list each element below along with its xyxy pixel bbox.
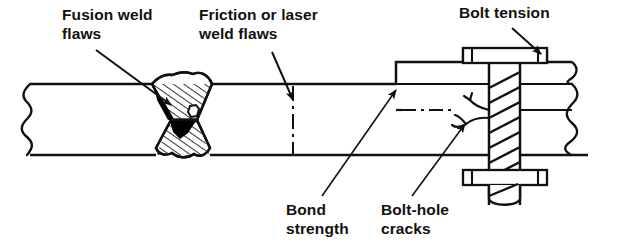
label-bolt-hole-cracks: Bolt-hole cracks	[381, 201, 449, 239]
label-friction-or-laser-weld-flaws: Friction or laser weld flaws	[199, 6, 318, 44]
figure-canvas: Fusion weld flaws Friction or laser weld…	[0, 0, 628, 252]
leader-bolt-hole-cracks	[412, 124, 465, 196]
leader-friction-weld	[272, 52, 293, 100]
label-bolt-tension: Bolt tension	[459, 4, 550, 23]
right-break-line	[565, 62, 577, 155]
bolt-hole-cracks-detail	[452, 93, 489, 127]
left-break-line	[22, 84, 32, 155]
top-nut	[463, 48, 547, 63]
fusion-weld	[148, 70, 220, 164]
bottom-nut	[463, 170, 547, 185]
label-bond-strength: Bond strength	[286, 201, 349, 239]
bolt-assembly	[463, 48, 547, 205]
label-fusion-weld-flaws: Fusion weld flaws	[62, 6, 153, 44]
leader-bond-strength	[322, 90, 396, 196]
weld-porosity-void	[188, 105, 199, 117]
bolt-tip	[489, 184, 520, 205]
